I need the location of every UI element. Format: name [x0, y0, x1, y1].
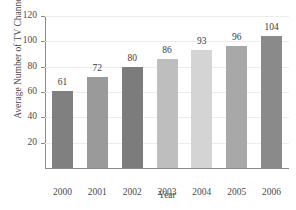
bar-value-label: 72	[77, 64, 117, 74]
x-axis-title: Year	[45, 190, 289, 200]
plot-area: 2040608010012061200072200180200286200393…	[45, 16, 289, 168]
bar[interactable]	[226, 46, 247, 168]
y-axis-tick	[41, 117, 45, 118]
bar[interactable]	[52, 91, 73, 168]
y-axis-tick-label: 100	[11, 36, 37, 46]
y-axis-tick-label: 60	[11, 87, 37, 97]
y-axis-tick	[41, 143, 45, 144]
bar-value-label: 104	[252, 23, 292, 33]
bar[interactable]	[122, 67, 143, 168]
y-axis-tick-label: 20	[11, 138, 37, 148]
bar[interactable]	[191, 50, 212, 168]
gridline	[45, 16, 289, 17]
bar-value-label: 86	[147, 46, 187, 56]
bar-value-label: 61	[42, 78, 82, 88]
y-axis-tick	[41, 41, 45, 42]
y-axis-tick-label: 120	[11, 11, 37, 21]
y-axis-tick	[41, 16, 45, 17]
y-axis-tick	[41, 92, 45, 93]
chart-title	[0, 0, 296, 2]
bar-chart-figure: Average Number of TV Channels 2040608010…	[0, 0, 296, 210]
bar[interactable]	[261, 36, 282, 168]
bar[interactable]	[87, 77, 108, 168]
x-axis-line	[45, 168, 289, 169]
bar[interactable]	[157, 59, 178, 168]
y-axis-tick-label: 80	[11, 62, 37, 72]
y-axis-tick	[41, 67, 45, 68]
bar-value-label: 96	[217, 33, 257, 43]
y-axis-tick-label: 40	[11, 112, 37, 122]
